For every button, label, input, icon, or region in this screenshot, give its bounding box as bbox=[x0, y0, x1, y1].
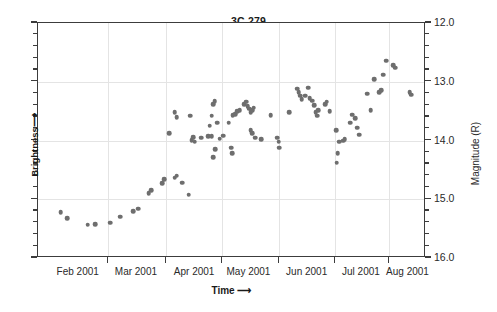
data-point bbox=[253, 135, 258, 140]
x-axis-arrow-icon: ⟶ bbox=[237, 285, 250, 296]
chart-figure: 3C 279 12.013.014.015.016.0 Feb 2001Mar … bbox=[0, 0, 497, 312]
y-axis-tick-right bbox=[425, 68, 429, 69]
data-point bbox=[93, 222, 98, 227]
data-point bbox=[315, 114, 320, 119]
data-point bbox=[208, 124, 213, 129]
data-point bbox=[335, 151, 340, 156]
x-axis-tick bbox=[221, 257, 222, 263]
data-point bbox=[85, 222, 90, 227]
data-point bbox=[215, 121, 220, 126]
data-point bbox=[324, 99, 329, 104]
gridline-horizontal bbox=[38, 141, 424, 142]
y-axis-tick-right bbox=[425, 162, 429, 163]
y-axis-tick-left bbox=[31, 21, 37, 22]
y-axis-tick-label: 12.0 bbox=[434, 16, 454, 28]
gridline-horizontal bbox=[38, 82, 424, 83]
data-point bbox=[136, 206, 141, 211]
y-axis-left-title: Brightness⟶ bbox=[29, 91, 40, 201]
y-axis-tick-right bbox=[425, 127, 429, 128]
y-axis-tick-right bbox=[425, 45, 429, 46]
y-axis-tick-label: 14.0 bbox=[434, 134, 454, 146]
x-axis-title-text: Time bbox=[212, 285, 235, 296]
data-point bbox=[381, 72, 386, 77]
x-axis-tick-label: Feb 2001 bbox=[57, 266, 99, 277]
data-point bbox=[65, 216, 70, 221]
data-point bbox=[131, 209, 136, 214]
data-point bbox=[357, 132, 362, 137]
y-axis-tick-label: 15.0 bbox=[434, 192, 454, 204]
y-axis-tick-right bbox=[425, 139, 431, 140]
data-point bbox=[212, 99, 217, 104]
y-axis-tick-right bbox=[425, 209, 429, 210]
data-point bbox=[259, 137, 264, 142]
y-axis-tick-right bbox=[425, 115, 429, 116]
y-axis-tick-right bbox=[425, 104, 429, 105]
gridline-vertical bbox=[166, 23, 167, 256]
data-point bbox=[384, 58, 389, 63]
data-point bbox=[210, 134, 215, 139]
y-axis-tick-right bbox=[425, 256, 431, 257]
gridline-vertical bbox=[389, 23, 390, 256]
y-axis-tick-left bbox=[33, 221, 37, 222]
data-point bbox=[108, 220, 113, 225]
data-point bbox=[211, 155, 216, 160]
data-point bbox=[188, 114, 193, 119]
x-axis-tick-label: Jul 2001 bbox=[342, 266, 380, 277]
x-axis-tick bbox=[388, 257, 389, 263]
y-axis-tick-right bbox=[425, 186, 429, 187]
y-axis-left-title-text: Brightness bbox=[29, 127, 40, 177]
data-point bbox=[175, 115, 180, 120]
data-point bbox=[409, 92, 414, 97]
x-axis-tick-label: May 2001 bbox=[226, 266, 270, 277]
data-point bbox=[58, 210, 63, 215]
x-axis-tick bbox=[278, 257, 279, 263]
y-axis-right-title: Magnitude (R) bbox=[470, 99, 481, 209]
data-point bbox=[306, 85, 311, 90]
gridline-vertical bbox=[222, 23, 223, 256]
plot-area bbox=[37, 22, 425, 257]
x-axis-tick-label: Aug 2001 bbox=[386, 266, 429, 277]
y-axis-tick-left bbox=[33, 68, 37, 69]
data-point bbox=[355, 125, 360, 130]
data-point bbox=[227, 121, 232, 126]
data-point bbox=[372, 77, 377, 82]
y-axis-tick-left bbox=[31, 256, 37, 257]
data-point bbox=[365, 91, 370, 96]
data-point bbox=[160, 181, 165, 186]
y-axis-left-arrow-icon: ⟶ bbox=[29, 114, 40, 127]
data-point bbox=[213, 147, 218, 152]
y-axis-tick-right bbox=[425, 245, 429, 246]
y-axis-tick-left bbox=[33, 233, 37, 234]
x-axis-tick bbox=[107, 257, 108, 263]
data-point bbox=[230, 151, 235, 156]
data-point bbox=[229, 145, 234, 150]
x-axis-tick-label: Apr 2001 bbox=[174, 266, 215, 277]
y-axis-tick-right bbox=[425, 33, 429, 34]
data-point bbox=[237, 108, 242, 113]
y-axis-tick-label: 13.0 bbox=[434, 75, 454, 87]
data-point bbox=[316, 108, 321, 113]
data-point bbox=[149, 188, 154, 193]
y-axis-tick-left bbox=[31, 80, 37, 81]
data-point bbox=[221, 134, 226, 139]
y-axis-tick-left bbox=[33, 45, 37, 46]
y-axis-tick-left bbox=[33, 245, 37, 246]
y-axis-tick-right bbox=[425, 57, 429, 58]
y-axis-tick-left bbox=[33, 33, 37, 34]
y-axis-tick-right bbox=[425, 151, 429, 152]
data-point bbox=[348, 121, 353, 126]
y-axis-tick-right bbox=[425, 80, 431, 81]
data-point bbox=[277, 145, 282, 150]
data-point bbox=[379, 88, 384, 93]
data-point bbox=[210, 114, 215, 119]
data-point bbox=[342, 137, 347, 142]
y-axis-tick-right bbox=[425, 174, 429, 175]
x-axis-tick bbox=[165, 257, 166, 263]
data-point bbox=[199, 135, 204, 140]
y-axis-tick-right bbox=[425, 198, 431, 199]
x-axis-tick-label: Mar 2001 bbox=[115, 266, 157, 277]
data-point bbox=[180, 181, 185, 186]
data-point bbox=[192, 139, 197, 144]
data-point bbox=[334, 128, 339, 133]
data-point bbox=[251, 105, 256, 110]
